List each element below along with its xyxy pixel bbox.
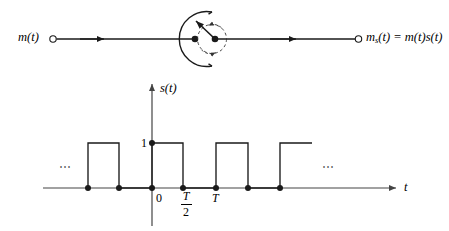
edge-dot <box>245 185 251 191</box>
switch-blade-arrow-icon <box>196 21 215 39</box>
input-terminal-icon <box>50 36 56 42</box>
block-diagram-group <box>50 11 362 66</box>
waveform-plot-group <box>43 84 396 226</box>
switch-arc-cap-bottom <box>209 64 213 66</box>
rotation-arrow-bottom-icon <box>202 50 216 54</box>
rotation-arrow-top-icon <box>209 24 222 27</box>
edge-dot <box>277 185 283 191</box>
half-period-numerator: T <box>178 190 194 203</box>
signal-multiplier-figure: m(t) ms(t) = m(t)s(t) s(t) t 1 0 T 2 T ⋯… <box>0 0 449 231</box>
output-signal-label-rest: (t) = m(t)s(t) <box>378 30 442 44</box>
x-axis-label: t <box>404 181 407 194</box>
half-period-tick-label: T 2 <box>178 190 194 218</box>
edge-dot <box>85 185 91 191</box>
origin-tick-label: 0 <box>156 192 162 204</box>
output-signal-label-base: m <box>366 30 375 44</box>
input-signal-label: m(t) <box>18 31 39 44</box>
half-period-denominator: 2 <box>178 206 194 219</box>
period-tick-label: T <box>212 192 219 204</box>
pulse-train-waveform <box>88 143 312 188</box>
output-signal-label: ms(t) = m(t)s(t) <box>366 31 442 45</box>
y-axis-label: s(t) <box>160 82 177 95</box>
output-terminal-icon <box>355 36 361 42</box>
edge-dot <box>116 185 122 191</box>
edge-dot-origin <box>149 185 155 191</box>
ellipsis-left: ⋯ <box>59 161 72 173</box>
amplitude-marker-dot <box>149 140 155 146</box>
amplitude-tick-label: 1 <box>141 137 147 149</box>
switch-arc-cap-top <box>209 12 213 14</box>
ellipsis-right: ⋯ <box>322 161 335 173</box>
